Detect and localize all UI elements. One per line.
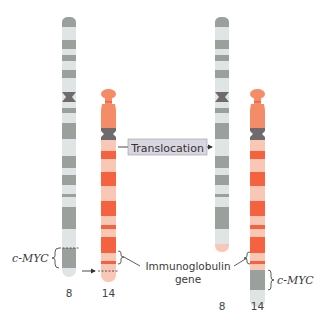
translocation-text: Translocation <box>130 142 204 155</box>
band <box>215 194 229 197</box>
band <box>250 237 265 253</box>
band <box>62 40 76 49</box>
translocated-tip <box>215 244 229 252</box>
translocation-diagram: c-MYC 8 14 Immunoglobulin gene Transl <box>0 0 323 327</box>
band <box>101 237 116 253</box>
band <box>62 175 76 185</box>
c-myc-label-right: c-MYC <box>277 274 314 287</box>
band <box>250 201 265 216</box>
band <box>215 55 229 61</box>
band <box>62 55 76 61</box>
chromosome-number-14-derived: 14 <box>251 300 265 312</box>
band <box>62 156 76 168</box>
immunoglobulin-label-line1: Immunoglobulin <box>145 260 230 272</box>
band <box>215 156 229 168</box>
immunoglobulin-band <box>101 261 116 264</box>
brace-icon <box>118 251 124 264</box>
c-myc-region <box>62 248 76 268</box>
brace-icon <box>52 248 59 268</box>
translocation-label: Translocation <box>118 139 212 155</box>
band <box>215 123 229 139</box>
band <box>250 225 265 229</box>
band <box>250 172 265 186</box>
band <box>101 201 116 216</box>
band <box>101 151 116 159</box>
band <box>62 194 76 197</box>
band <box>215 40 229 49</box>
chromosome-14-derived <box>250 89 265 307</box>
band <box>62 108 76 113</box>
band <box>215 207 229 229</box>
c-myc-label-left: c-MYC <box>12 252 49 265</box>
immunoglobulin-band <box>250 261 265 264</box>
brace-icon <box>268 270 274 290</box>
chromosome-8-derived <box>215 17 229 252</box>
centromere <box>101 128 116 140</box>
chromosome-8-original <box>59 17 80 277</box>
band <box>62 207 76 229</box>
band <box>215 70 229 78</box>
c-myc-region <box>250 270 265 290</box>
chromosome-number-8: 8 <box>66 287 73 299</box>
band <box>101 172 116 186</box>
chromosome-number-14: 14 <box>102 287 116 299</box>
band <box>62 123 76 139</box>
chromosome-14-original <box>98 89 119 282</box>
chromosome-number-8-derived: 8 <box>219 300 226 312</box>
band <box>62 70 76 78</box>
immunoglobulin-label-line2: gene <box>175 273 201 285</box>
centromere <box>250 128 265 140</box>
band <box>101 225 116 229</box>
band <box>215 108 229 113</box>
band <box>250 151 265 159</box>
band <box>215 175 229 185</box>
